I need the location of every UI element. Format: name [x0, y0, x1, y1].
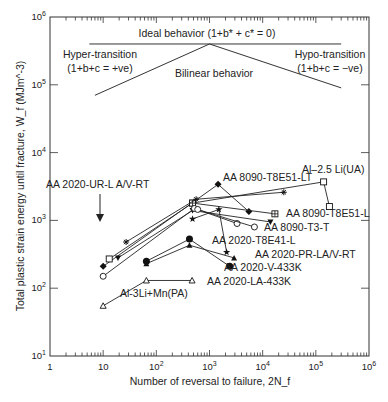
hypo-transition-label: Hypo-transition	[295, 48, 366, 60]
x-tick-label: 106	[362, 360, 377, 372]
series-label: Al–2.5 Li(UA)	[302, 163, 364, 175]
series-label: AA 8090-T8E51-LT	[223, 171, 313, 183]
series-aa-8090-t8e51-l	[190, 200, 278, 217]
y-tick-label: 104	[32, 146, 47, 158]
series-label: Al-3Li+Mn(PA)	[120, 287, 188, 299]
chart: 110102103104105106101102103104105106 AA …	[0, 0, 388, 402]
series-label: AA 2020-V-433K	[224, 261, 302, 273]
hypo-transition-eq: (1+b+c = −ve)	[297, 62, 362, 74]
x-tick-label: 105	[309, 360, 324, 372]
bilinear-behavior-label: Bilinear behavior	[175, 67, 254, 79]
series-aa-2020-pr-la-v-rt	[189, 206, 230, 256]
y-tick-label: 101	[32, 349, 47, 361]
ideal-behavior-label: Ideal behavior (1+b* + c* = 0)	[139, 27, 276, 39]
hyper-transition-eq: (1+b+c = +ve)	[67, 62, 132, 74]
y-tick-label: 103	[32, 213, 47, 225]
x-tick-label: 1	[47, 361, 52, 372]
ur-arrow-label: AA 2020-UR-L A/V-RT	[46, 178, 150, 190]
y-axis-title: Total plastic strain energy until fractu…	[14, 61, 26, 312]
series-label: AA 8090-T8E51-L	[286, 207, 370, 219]
x-tick-label: 102	[149, 360, 164, 372]
series-label: AA 8090-T3-T	[264, 221, 330, 233]
x-axis-title: Number of reversal to failure, 2N_f	[130, 375, 291, 387]
series-label: AA 2020-T8E41-L	[212, 234, 296, 246]
x-tick-label: 103	[202, 360, 217, 372]
y-tick-label: 105	[32, 78, 47, 90]
y-tick-label: 106	[32, 10, 47, 22]
series-labels: AA 8090-T8E51-LTAl–2.5 Li(UA)AA 8090-T8E…	[120, 163, 370, 299]
x-tick-label: 10	[98, 361, 109, 372]
series-label: AA 2020-LA-433K	[207, 275, 291, 287]
x-tick-label: 104	[255, 360, 270, 372]
series-label: AA 2020-PR-LA/V-RT	[255, 248, 356, 260]
y-tick-label: 102	[32, 281, 47, 293]
hyper-transition-label: Hyper-transition	[63, 48, 137, 60]
